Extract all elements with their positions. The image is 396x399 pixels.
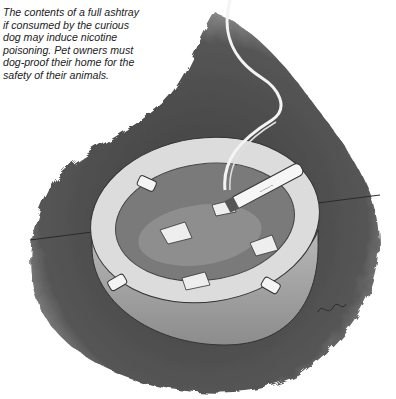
- ashtray-illustration: ~~~~~: [0, 0, 396, 399]
